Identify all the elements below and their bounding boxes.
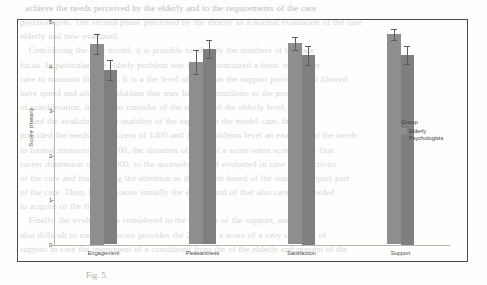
legend-label: Elderly xyxy=(409,128,426,134)
error-bar-cap-lower xyxy=(404,64,410,65)
bar xyxy=(288,43,302,244)
bar xyxy=(302,55,316,244)
bar xyxy=(90,44,104,244)
error-bar-cap-lower xyxy=(305,65,311,66)
error-bar-cap-lower xyxy=(94,54,100,55)
y-tick-mark xyxy=(51,111,54,112)
legend-label: Psychologists xyxy=(409,135,443,141)
x-axis-line xyxy=(54,245,450,246)
error-bar-cap-upper xyxy=(404,46,410,47)
error-bar-line xyxy=(209,40,210,58)
chart-legend: Group ElderlyPsychologists xyxy=(401,119,463,142)
error-bar-line xyxy=(97,34,98,54)
screenshot-root: achieve the needs perceived by the elder… xyxy=(0,0,487,285)
x-tick-label: Pleasantness xyxy=(163,250,243,256)
legend-title: Group xyxy=(401,119,463,125)
y-tick-mark xyxy=(51,200,54,201)
legend-swatch-icon xyxy=(401,135,407,142)
legend-item: Psychologists xyxy=(401,135,463,142)
x-tick-label: Satisfaction xyxy=(262,250,342,256)
legend-item: Elderly xyxy=(401,128,463,135)
error-bar-cap-lower xyxy=(292,50,298,51)
error-bar-line xyxy=(308,46,309,66)
error-bar-cap-lower xyxy=(391,40,397,41)
error-bar-cap-upper xyxy=(94,34,100,35)
error-bar-cap-upper xyxy=(107,60,113,61)
y-tick-mark xyxy=(51,156,54,157)
bar xyxy=(401,55,415,244)
y-tick-mark xyxy=(51,245,54,246)
x-tick-label: Engagement xyxy=(64,250,144,256)
y-axis-label: Score (mean) xyxy=(27,68,34,188)
bar xyxy=(189,62,203,244)
error-bar-cap-upper xyxy=(292,37,298,38)
error-bar-cap-lower xyxy=(107,80,113,81)
error-bar-cap-upper xyxy=(193,50,199,51)
bar xyxy=(387,34,401,244)
error-bar-line xyxy=(110,60,111,80)
y-axis-line xyxy=(54,22,55,245)
error-bar-cap-lower xyxy=(206,58,212,59)
error-bar-cap-upper xyxy=(305,46,311,47)
error-bar-cap-lower xyxy=(193,74,199,75)
chart-figure: Score (mean) 012345 EngagementPleasantne… xyxy=(17,19,468,262)
error-bar-line xyxy=(196,50,197,74)
error-bar-cap-upper xyxy=(391,29,397,30)
error-bar-line xyxy=(394,29,395,40)
bar xyxy=(203,49,217,245)
legend-swatch-icon xyxy=(401,128,407,135)
y-tick-mark xyxy=(51,22,54,23)
error-bar-cap-upper xyxy=(206,40,212,41)
x-tick-label: Support xyxy=(361,250,441,256)
y-tick-mark xyxy=(51,67,54,68)
figure-caption: Fig. 5. xyxy=(86,271,108,280)
bar xyxy=(104,70,118,244)
error-bar-line xyxy=(407,46,408,64)
plot-area: Score (mean) 012345 EngagementPleasantne… xyxy=(18,20,467,261)
error-bar-line xyxy=(295,37,296,50)
